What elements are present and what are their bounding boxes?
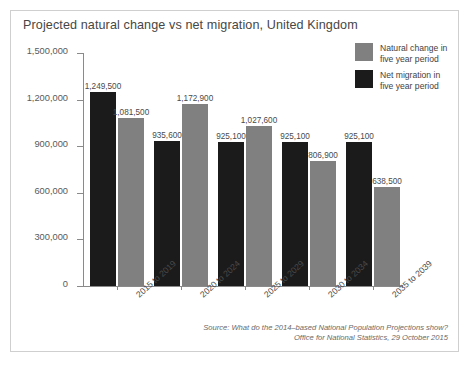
y-axis-tick-label: 0: [63, 279, 68, 289]
legend-item-label: Natural change in five year period: [380, 43, 455, 64]
bar-value-label: 925,100: [280, 132, 310, 141]
y-axis-tick: 0: [77, 286, 83, 287]
legend-swatch-icon: [355, 70, 373, 88]
y-axis-tick: 900,000: [77, 146, 83, 147]
bar-group: 1,249,5001,081,500: [90, 53, 144, 286]
chart-title: Projected natural change vs net migratio…: [23, 18, 358, 32]
y-axis-tick: 1,500,000: [77, 53, 83, 54]
bar-value-label: 925,100: [216, 132, 246, 141]
y-axis-tick-label: 600,000: [34, 186, 68, 196]
bar-natural[interactable]: 1,172,900: [182, 104, 208, 286]
bar-value-label: 638,500: [372, 177, 402, 186]
legend-item-net[interactable]: Net migration in five year period: [355, 70, 455, 91]
bar-natural[interactable]: 806,900: [310, 161, 336, 286]
bar-net[interactable]: 1,249,500: [90, 92, 116, 286]
x-axis-line: [83, 286, 403, 287]
x-axis-tick: [373, 286, 374, 290]
bar-group: 935,6001,172,900: [154, 53, 208, 286]
bar-group: 925,100806,900: [282, 53, 336, 286]
legend-item-natural[interactable]: Natural change in five year period: [355, 43, 455, 64]
y-axis-tick-label: 300,000: [34, 232, 68, 242]
y-axis-tick-label: 1,500,000: [27, 46, 68, 56]
source-note: Source: What do the 2014–based National …: [203, 323, 448, 343]
bar-natural[interactable]: 1,081,500: [118, 118, 144, 286]
bar-value-label: 935,600: [152, 131, 182, 140]
bar-natural[interactable]: 1,027,600: [246, 126, 272, 286]
y-axis-tick: 600,000: [77, 193, 83, 194]
x-axis-tick: [181, 286, 182, 290]
x-axis-tick: [309, 286, 310, 290]
y-axis-tick: 1,200,000: [77, 100, 83, 101]
source-line-1: Source: What do the 2014–based National …: [203, 323, 448, 333]
bar-value-label: 1,172,900: [177, 94, 213, 103]
y-axis-tick: 300,000: [77, 239, 83, 240]
y-axis-tick-label: 900,000: [34, 139, 68, 149]
legend-swatch-icon: [355, 43, 373, 61]
x-axis-tick: [245, 286, 246, 290]
source-line-2: Office for National Statistics, 29 Octob…: [203, 333, 448, 343]
x-axis-tick: [117, 286, 118, 290]
bar-group: 925,1001,027,600: [218, 53, 272, 286]
bar-value-label: 925,100: [344, 132, 374, 141]
y-axis-tick-label: 1,200,000: [27, 93, 68, 103]
legend-item-label: Net migration in five year period: [380, 70, 455, 91]
bar-value-label: 806,900: [308, 151, 338, 160]
bar-value-label: 1,249,500: [85, 82, 121, 91]
chart-card: Projected natural change vs net migratio…: [10, 10, 459, 352]
bar-natural[interactable]: 638,500: [374, 187, 400, 286]
chart-legend: Natural change in five year periodNet mi…: [355, 43, 455, 97]
bar-value-label: 1,081,500: [113, 108, 149, 117]
bar-value-label: 1,027,600: [241, 116, 277, 125]
